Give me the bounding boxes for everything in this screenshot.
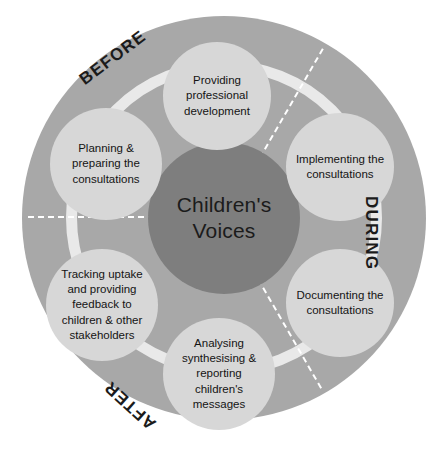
node-line: and providing xyxy=(67,283,136,295)
node-line: stakeholders xyxy=(69,329,134,341)
node-line: consultations xyxy=(72,173,139,185)
node-line: Planning & xyxy=(78,142,134,154)
node-providing-professional-development[interactable]: Providing professional development xyxy=(163,42,271,150)
center-label-line-1: Children's xyxy=(177,193,272,216)
node-line: preparing the xyxy=(72,157,140,169)
node-tracking-uptake-feedback[interactable]: Tracking uptake and providing feedback t… xyxy=(46,249,158,361)
node-line: Implementing the xyxy=(296,153,384,165)
node-line: children & other xyxy=(62,314,143,326)
phase-label-during: DURING xyxy=(361,196,381,270)
node-line: Tracking uptake xyxy=(61,268,142,280)
node-line: consultations xyxy=(306,168,373,180)
center-label: Children's Voices xyxy=(177,192,272,245)
caption-partial xyxy=(18,440,318,454)
node-line: messages xyxy=(193,398,245,410)
node-line: development xyxy=(184,105,250,117)
node-line: children's xyxy=(195,383,243,395)
node-line: Analysing xyxy=(194,337,244,349)
node-label: Documenting the consultations xyxy=(291,288,390,318)
node-line: consultations xyxy=(306,304,373,316)
center-label-line-2: Voices xyxy=(192,219,255,242)
node-line: professional xyxy=(186,89,248,101)
node-line: feedback to xyxy=(72,298,131,310)
center-circle: Children's Voices xyxy=(148,142,300,294)
node-line: Providing xyxy=(193,74,241,86)
node-analysing-synthesising-reporting[interactable]: Analysing synthesising & reporting child… xyxy=(163,318,275,430)
node-label: Tracking uptake and providing feedback t… xyxy=(55,267,148,343)
diagram-canvas: Children's Voices Providing professional… xyxy=(0,0,446,454)
node-line: reporting xyxy=(196,367,241,379)
node-label: Implementing the consultations xyxy=(290,152,390,182)
node-label: Analysing synthesising & reporting child… xyxy=(176,336,262,412)
node-label: Planning & preparing the consultations xyxy=(66,141,146,187)
node-planning-preparing-consultations[interactable]: Planning & preparing the consultations xyxy=(50,108,162,220)
node-line: synthesising & xyxy=(182,352,256,364)
node-label: Providing professional development xyxy=(178,73,256,119)
node-line: Documenting the xyxy=(297,289,384,301)
